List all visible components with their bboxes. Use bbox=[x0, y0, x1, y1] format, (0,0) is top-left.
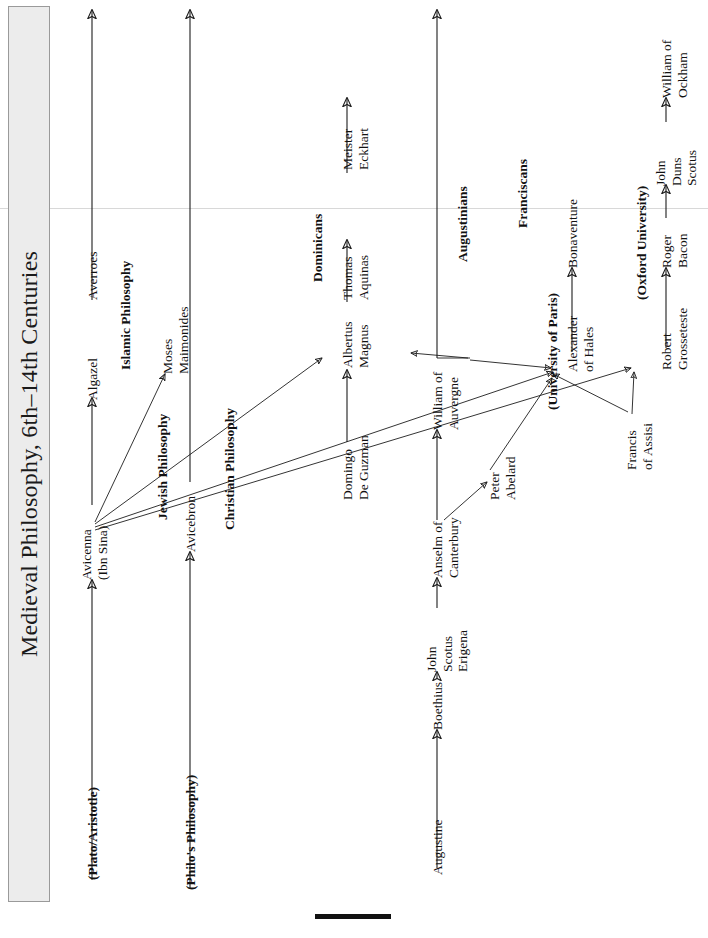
meister-line1: Meister bbox=[340, 128, 356, 170]
label-peter-abelard: Peter Abelard bbox=[487, 457, 518, 500]
aquinas-line2: Aquinas bbox=[356, 255, 372, 300]
label-philo-philosophy: (Philo's Philosophy) bbox=[183, 775, 199, 890]
canterbury-line2: Canterbury bbox=[446, 517, 462, 578]
label-william-of-auvergne: William of Auvergne bbox=[430, 372, 461, 430]
magnus-line2: Magnus bbox=[356, 322, 372, 369]
alexander-line2: of Hales bbox=[581, 316, 597, 372]
label-avicebron: Avicebron bbox=[183, 496, 199, 552]
heading-oxford-university: (Oxford University) bbox=[634, 186, 650, 300]
label-augustine: Augustine bbox=[430, 820, 446, 876]
label-william-of-ockham: William of Ockham bbox=[659, 40, 690, 98]
peter-line1: Peter bbox=[487, 457, 503, 500]
bacon-line2: Bacon bbox=[675, 234, 691, 269]
heading-jewish-philosophy: Jewish Philosophy bbox=[155, 414, 171, 520]
label-bonaventure: Bonaventure bbox=[565, 199, 581, 268]
grosseteste-line2: Grosseteste bbox=[675, 308, 691, 370]
label-boethius: Boethius bbox=[430, 682, 446, 730]
john-line1: John bbox=[424, 630, 440, 672]
label-algazel: Algazel bbox=[85, 358, 101, 400]
de-guzman-line2: De Guzman bbox=[356, 435, 372, 500]
william-auvergne-line2: Auvergne bbox=[446, 372, 462, 430]
heading-islamic-philosophy: Islamic Philosophy bbox=[118, 261, 134, 370]
anselm-line1: Anselm of bbox=[430, 517, 446, 578]
thomas-line1: Thomas bbox=[340, 255, 356, 300]
plato-aristotle-text: (Plato/Aristotle) bbox=[85, 787, 100, 880]
label-roger-bacon: Roger Bacon bbox=[659, 234, 690, 269]
label-anselm-of-canterbury: Anselm of Canterbury bbox=[430, 517, 461, 578]
edge-avicenna-albertus bbox=[95, 358, 322, 524]
label-alexander-of-hales: Alexander of Hales bbox=[565, 316, 596, 372]
heading-augustinians: Augustinians bbox=[455, 186, 471, 262]
francis-line1: Francis bbox=[624, 423, 640, 470]
label-averroes: Averroes bbox=[85, 252, 101, 300]
label-albertus-magnus: Albertus Magnus bbox=[340, 322, 371, 369]
label-john-scotus-erigena: John Scotus Erigena bbox=[424, 630, 471, 672]
heading-dominicans: Dominicans bbox=[310, 214, 326, 282]
edge-william-branch-arrow bbox=[411, 353, 468, 358]
heading-franciscans: Franciscans bbox=[515, 159, 531, 228]
edge-francis-grosseteste bbox=[632, 372, 634, 414]
ockham-line1: William of bbox=[659, 40, 675, 98]
duns-line1: John bbox=[653, 150, 669, 186]
label-plato-aristotle: (Plato/Aristotle) bbox=[85, 787, 101, 880]
philo-philosophy-text: (Philo's Philosophy) bbox=[183, 775, 198, 890]
heading-university-of-paris: (University of Paris) bbox=[545, 293, 561, 410]
label-avicenna: Avicenna (Ibn Sina) bbox=[79, 526, 110, 580]
alexander-line1: Alexander bbox=[565, 316, 581, 372]
domingo-line1: Domingo bbox=[340, 435, 356, 500]
label-robert-grosseteste: Robert Grosseteste bbox=[659, 308, 690, 370]
abelard-line2: Abelard bbox=[503, 457, 519, 500]
avicenna-line1: Avicenna bbox=[79, 526, 95, 580]
ockham-line2: Ockham bbox=[675, 40, 691, 98]
label-john-duns-scotus: John Duns Scotus bbox=[653, 150, 700, 186]
eckhart-line2: Eckhart bbox=[356, 128, 372, 170]
diagram-page: Medieval Philosophy, 6th–14th Centuries bbox=[0, 0, 708, 938]
edge-william-alexander bbox=[470, 360, 551, 368]
edge-anselm-abelard bbox=[444, 482, 487, 520]
robert-line1: Robert bbox=[659, 308, 675, 370]
label-thomas-aquinas: Thomas Aquinas bbox=[340, 255, 371, 300]
duns-line3: Scotus bbox=[684, 150, 700, 186]
roger-line1: Roger bbox=[659, 234, 675, 269]
label-meister-eckhart: Meister Eckhart bbox=[340, 128, 371, 170]
page-marker-bar bbox=[315, 914, 391, 919]
heading-christian-philosophy: Christian Philosophy bbox=[222, 408, 238, 530]
erigena-line3: Erigena bbox=[455, 630, 471, 672]
francis-line2: of Assisi bbox=[640, 423, 656, 470]
albertus-line1: Albertus bbox=[340, 322, 356, 369]
edge-francis-alexander bbox=[553, 374, 628, 412]
label-domingo-de-guzman: Domingo De Guzman bbox=[340, 435, 371, 500]
label-moses-maimonides: Moses Maimonides bbox=[160, 307, 191, 375]
scotus-line2: Scotus bbox=[440, 630, 456, 672]
moses-line1: Moses bbox=[160, 307, 176, 375]
duns-line2: Duns bbox=[669, 150, 685, 186]
avicenna-line2: (Ibn Sina) bbox=[95, 526, 111, 580]
william-auvergne-line1: William of bbox=[430, 372, 446, 430]
maimonides-line2: Maimonides bbox=[176, 307, 192, 375]
label-francis-of-assisi: Francis of Assisi bbox=[624, 423, 655, 470]
